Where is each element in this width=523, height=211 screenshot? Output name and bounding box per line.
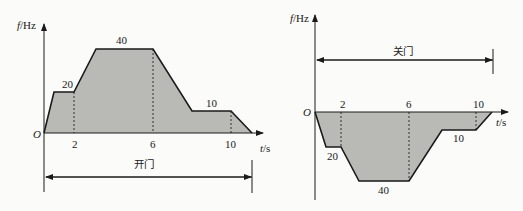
- level-label-20: 20: [62, 78, 74, 90]
- origin-label: O: [33, 128, 41, 140]
- level-label-20: 20: [327, 150, 339, 162]
- door-open-chart: f/Hz O 2 6 10 20 40 10 t/s 开门: [17, 19, 270, 193]
- tick-10: 10: [473, 98, 485, 110]
- tick-6: 6: [150, 138, 156, 150]
- y-axis-label: f/Hz: [290, 12, 309, 24]
- level-label-10: 10: [453, 132, 465, 144]
- span-label-open: 开门: [134, 158, 154, 170]
- origin-label: O: [303, 106, 311, 118]
- tick-2: 2: [340, 98, 346, 110]
- x-axis-label: t/s: [260, 142, 270, 154]
- level-label-40: 40: [378, 184, 390, 196]
- tick-10: 10: [225, 138, 237, 150]
- level-label-40: 40: [116, 34, 128, 46]
- figure-canvas: f/Hz O 2 6 10 20 40 10 t/s 开门 f/Hz O 2 6…: [0, 0, 523, 211]
- x-axis-label: t/s: [496, 116, 506, 128]
- tick-2: 2: [72, 138, 78, 150]
- y-axis-label: f/Hz: [17, 19, 36, 31]
- level-label-10: 10: [206, 97, 218, 109]
- door-close-chart: f/Hz O 2 6 10 20 40 10 t/s 关门: [290, 12, 508, 200]
- tick-6: 6: [406, 98, 412, 110]
- span-label-close: 关门: [393, 45, 413, 57]
